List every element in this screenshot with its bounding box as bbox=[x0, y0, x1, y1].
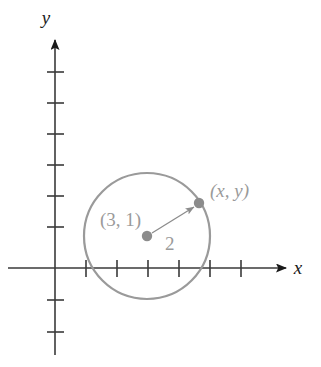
radius-length-label: 2 bbox=[165, 233, 175, 254]
radius-arrow bbox=[152, 207, 194, 233]
x-axis-group bbox=[8, 260, 286, 277]
boundary-point-label: (x, y) bbox=[210, 180, 249, 202]
center-point-label: (3, 1) bbox=[100, 209, 141, 231]
boundary-point-dot bbox=[194, 198, 204, 208]
y-axis-label: y bbox=[40, 7, 51, 28]
x-axis-label: x bbox=[293, 257, 303, 278]
math-diagram-figure: y x (3, 1) 2 (x, y) bbox=[0, 0, 321, 367]
coordinate-plane-svg: y x (3, 1) 2 (x, y) bbox=[0, 0, 321, 367]
y-axis-group bbox=[47, 40, 64, 355]
center-point-dot bbox=[142, 231, 152, 241]
